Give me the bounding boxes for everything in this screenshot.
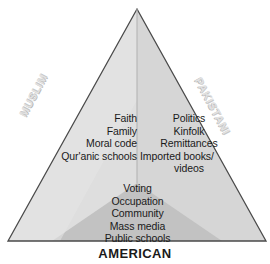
segment-pakistani-items: Politics Kinfolk Remittances Imported bo… bbox=[140, 112, 260, 175]
list-item: Remittances bbox=[140, 137, 260, 150]
list-item: Occupation bbox=[35, 195, 240, 208]
list-item: Qur'anic schools bbox=[20, 150, 137, 163]
list-item: Moral code bbox=[20, 137, 137, 150]
list-item: Faith bbox=[20, 112, 137, 125]
list-item: Mass media bbox=[35, 220, 240, 233]
segment-muslim-items: Faith Family Moral code Qur'anic schools bbox=[20, 112, 137, 162]
list-item: Community bbox=[35, 207, 240, 220]
list-item: Imported books/ bbox=[140, 150, 260, 163]
axis-label-american: AMERICAN bbox=[0, 246, 270, 261]
list-item: Public schools bbox=[35, 232, 240, 245]
list-item: Politics bbox=[140, 112, 260, 125]
list-item: videos bbox=[140, 162, 260, 175]
identity-triangle-figure: MUSLIM PAKISTANI Faith Family Moral code… bbox=[0, 0, 270, 264]
list-item: Family bbox=[20, 125, 137, 138]
segment-american-items: Voting Occupation Community Mass media P… bbox=[35, 182, 240, 245]
list-item: Voting bbox=[35, 182, 240, 195]
list-item: Kinfolk bbox=[140, 125, 260, 138]
